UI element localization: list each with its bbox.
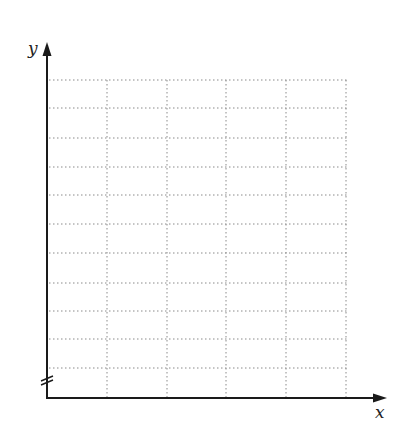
axes <box>41 42 387 403</box>
x-axis-label: x <box>375 402 385 422</box>
grid <box>49 80 347 397</box>
graph-canvas: y x <box>0 0 402 432</box>
y-axis-label: y <box>27 38 38 58</box>
y-axis-arrow-icon <box>43 42 52 56</box>
